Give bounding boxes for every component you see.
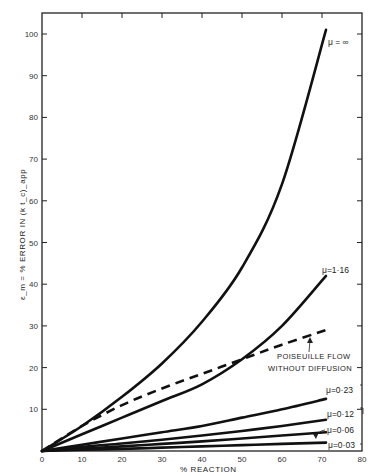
y-tick-label: 70 bbox=[29, 155, 38, 164]
curve-- bbox=[42, 30, 326, 451]
x-tick-label: 80 bbox=[358, 455, 367, 464]
annotation-line1: POISEUILLE FLOW bbox=[277, 352, 351, 361]
annotation-arrowhead bbox=[307, 337, 313, 343]
y-tick-label: 60 bbox=[29, 197, 38, 206]
label-mu-003: μ=0·03 bbox=[328, 440, 355, 450]
mu006-arrowhead bbox=[313, 434, 318, 439]
y-tick-label: 50 bbox=[29, 239, 38, 248]
label-mu-116: μ=1·16 bbox=[322, 265, 349, 275]
y-tick-label: 40 bbox=[29, 280, 38, 289]
x-axis-title: % REACTION bbox=[180, 465, 237, 474]
y-tick-label: 10 bbox=[29, 405, 38, 414]
annotation-line2: WITHOUT DIFFUSION bbox=[268, 364, 352, 373]
label-mu-006: μ=0·06 bbox=[327, 425, 354, 435]
y-axis-title: ε_m = % ERROR IN (k t_c)_app bbox=[18, 169, 27, 300]
x-tick-label: 70 bbox=[318, 455, 327, 464]
y-tick-label: 20 bbox=[29, 364, 38, 373]
x-tick-label: 30 bbox=[158, 455, 167, 464]
x-tick-label: 0 bbox=[40, 455, 45, 464]
label-mu-012: μ=0·12 bbox=[327, 409, 354, 419]
label-mu-inf: μ = ∞ bbox=[328, 37, 349, 47]
label-mu-023: μ=0·23 bbox=[326, 385, 353, 395]
y-tick-label: 80 bbox=[29, 113, 38, 122]
axis-tick-labels: 01020304050607080102030405060708090100 bbox=[25, 30, 367, 464]
x-tick-label: 20 bbox=[118, 455, 127, 464]
y-tick-label: 100 bbox=[25, 30, 39, 39]
curves bbox=[42, 30, 326, 451]
x-tick-label: 10 bbox=[78, 455, 87, 464]
y-tick-label: 90 bbox=[29, 72, 38, 81]
chart: 01020304050607080102030405060708090100 μ… bbox=[0, 0, 382, 476]
y-tick-label: 30 bbox=[29, 322, 38, 331]
x-tick-label: 40 bbox=[198, 455, 207, 464]
x-tick-label: 60 bbox=[278, 455, 287, 464]
x-tick-label: 50 bbox=[238, 455, 247, 464]
